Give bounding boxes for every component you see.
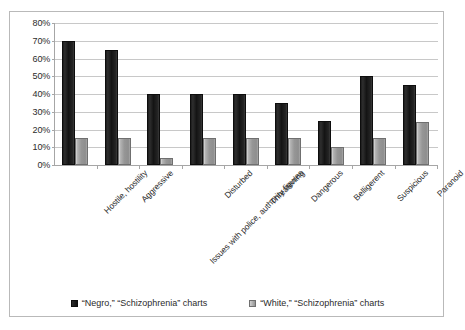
bar-group <box>224 23 267 165</box>
bar <box>160 158 173 165</box>
bar <box>105 50 118 165</box>
bar <box>288 138 301 165</box>
legend-label: “White,” “Schizophrenia” charts <box>260 298 384 308</box>
y-axis-tick-labels: 80%70%60%50%40%30%20%10%0% <box>14 23 50 165</box>
bar <box>360 76 373 165</box>
y-axis-tick-label: 40% <box>33 89 50 99</box>
bar-group <box>309 23 352 165</box>
bar-group <box>54 23 97 165</box>
x-axis-category-label: Belligerent <box>351 168 386 203</box>
bar-group <box>139 23 182 165</box>
bar-group <box>182 23 225 165</box>
bar-group <box>267 23 310 165</box>
x-axis-category-label: Dangerous <box>309 168 345 204</box>
bar-group <box>97 23 140 165</box>
y-axis-tick-label: 50% <box>33 71 50 81</box>
bar <box>118 138 131 165</box>
y-axis-tick-mark <box>52 165 55 166</box>
x-axis-category-label: Hostile, hostility <box>101 168 149 216</box>
x-axis-category-label: Suspicious <box>394 168 429 203</box>
bar <box>246 138 259 165</box>
y-axis-tick-label: 20% <box>33 125 50 135</box>
chart-frame: 80%70%60%50%40%30%20%10%0% Hostile, host… <box>9 11 444 317</box>
legend-item[interactable]: “Negro,” “Schizophrenia” charts <box>71 298 208 308</box>
y-axis-tick-label: 70% <box>33 36 50 46</box>
bar <box>403 85 416 165</box>
x-axis-category-label: Paranoid <box>435 168 465 199</box>
y-axis-tick-label: 60% <box>33 54 50 64</box>
y-axis-tick-label: 80% <box>33 18 50 28</box>
legend-swatch-icon <box>71 300 78 307</box>
x-axis-category-label: Threatening <box>268 168 306 206</box>
x-axis-category-label: Disturbed <box>223 168 255 200</box>
x-axis-tick-mark <box>437 165 438 169</box>
chart-plot-wrapper: 80%70%60%50%40%30%20%10%0% Hostile, host… <box>10 12 445 318</box>
y-axis-tick-label: 10% <box>33 142 50 152</box>
bar <box>203 138 216 165</box>
bar <box>416 122 429 165</box>
bar-series-layer <box>54 23 437 165</box>
legend-item[interactable]: “White,” “Schizophrenia” charts <box>249 298 384 308</box>
bar <box>75 138 88 165</box>
x-axis-category-labels: Hostile, hostilityAggressiveIssues with … <box>54 168 437 288</box>
bar <box>190 94 203 165</box>
bar <box>233 94 246 165</box>
bar <box>275 103 288 165</box>
bar <box>373 138 386 165</box>
bar <box>62 41 75 165</box>
bar <box>331 147 344 165</box>
legend-swatch-icon <box>249 300 256 307</box>
bar <box>318 121 331 165</box>
y-axis-tick-label: 0% <box>37 160 50 170</box>
bar-group <box>395 23 438 165</box>
chart-legend: “Negro,” “Schizophrenia” charts“White,” … <box>10 298 445 308</box>
legend-label: “Negro,” “Schizophrenia” charts <box>82 298 208 308</box>
bar <box>147 94 160 165</box>
y-axis-tick-label: 30% <box>33 107 50 117</box>
bar-group <box>352 23 395 165</box>
